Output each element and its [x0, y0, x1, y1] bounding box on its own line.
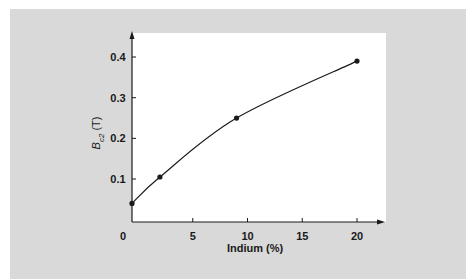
y-axis-title: Bc2 (T) [90, 117, 105, 150]
axes [130, 31, 386, 225]
y-axis-symbol: B [90, 142, 102, 149]
x-tick-label: 0 [120, 230, 126, 242]
data-points [129, 58, 359, 206]
y-tick-label: 0.4 [110, 51, 125, 63]
data-point [129, 201, 134, 206]
x-axis-title: Indium (%) [227, 242, 283, 254]
x-tick-label: 10 [241, 230, 253, 242]
x-tick-label: 15 [296, 230, 308, 242]
data-point [157, 174, 162, 179]
x-tick-label: 5 [190, 230, 196, 242]
y-axis-subscript: c2 [97, 134, 106, 142]
data-point [354, 58, 359, 63]
y-tick-label: 0.3 [110, 92, 125, 104]
chart-canvas [0, 0, 466, 279]
y-tick-label: 0.2 [110, 132, 125, 144]
data-curve [132, 61, 357, 203]
data-point [234, 115, 239, 120]
y-tick-label: 0.1 [110, 173, 125, 185]
y-axis-unit: (T) [90, 117, 102, 131]
x-tick-label: 20 [351, 230, 363, 242]
